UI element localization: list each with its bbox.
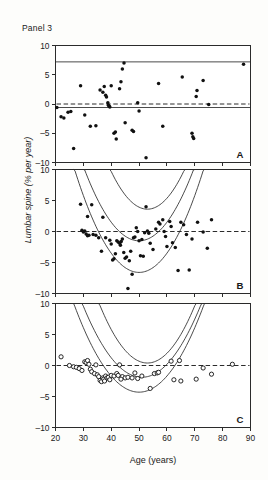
x-tick-label: 40: [107, 433, 117, 443]
data-point: [194, 377, 198, 381]
data-point: [230, 362, 234, 366]
y-tick-label: 5: [45, 196, 50, 206]
panel-letter-a: A: [237, 149, 244, 160]
data-point: [172, 378, 176, 382]
data-point: [114, 130, 118, 134]
data-point: [140, 238, 144, 242]
data-point: [136, 376, 140, 380]
data-point: [179, 379, 183, 383]
data-point: [168, 220, 172, 224]
data-point: [144, 205, 148, 209]
data-point: [169, 359, 173, 363]
data-point: [125, 255, 129, 259]
data-point: [144, 156, 148, 160]
figure-panel-3: Panel 3 Lumbar spine (% per year) Age (y…: [0, 0, 268, 480]
data-point: [100, 250, 104, 254]
data-point: [112, 257, 116, 261]
data-point: [118, 87, 122, 91]
data-point: [147, 232, 151, 236]
data-point: [210, 218, 214, 222]
data-point: [157, 82, 161, 86]
data-point: [129, 250, 133, 254]
data-point: [80, 368, 84, 372]
data-point: [156, 370, 160, 374]
data-point: [123, 121, 127, 125]
data-point: [119, 80, 123, 84]
y-tick-label: 0: [45, 227, 50, 237]
x-tick-label: 70: [190, 433, 200, 443]
x-tick-label: 60: [162, 433, 172, 443]
data-point: [132, 130, 136, 134]
data-point: [190, 132, 194, 136]
data-point: [94, 363, 98, 367]
data-point: [162, 230, 166, 234]
panel-letter-c: C: [237, 414, 244, 425]
scatter-plot-canvas: –10–50510A–10–50510B–10–5051020304050607…: [0, 0, 268, 480]
y-tick-label: 10: [40, 41, 50, 51]
data-point: [105, 95, 109, 99]
data-point: [90, 203, 94, 207]
data-point: [135, 226, 139, 230]
data-point: [62, 116, 66, 120]
data-point: [196, 220, 200, 224]
data-point: [103, 85, 107, 89]
data-point: [126, 375, 130, 379]
x-tick-label: 20: [51, 433, 61, 443]
data-point: [72, 147, 76, 151]
data-point: [192, 137, 196, 141]
data-point: [116, 373, 120, 377]
data-point: [201, 79, 205, 83]
data-point: [133, 371, 137, 375]
data-point: [140, 374, 144, 378]
data-point: [59, 355, 63, 359]
data-point: [119, 377, 123, 381]
y-tick-label: –5: [40, 258, 50, 268]
data-point: [122, 251, 126, 255]
data-point: [130, 376, 134, 380]
data-point: [87, 233, 91, 237]
data-point: [154, 227, 158, 231]
data-point: [242, 62, 246, 66]
data-point: [207, 103, 211, 107]
data-point: [55, 106, 59, 110]
x-tick-label: 50: [134, 433, 144, 443]
data-point: [158, 222, 162, 226]
data-point: [201, 366, 205, 370]
data-point: [181, 75, 185, 79]
data-point: [94, 124, 98, 128]
data-point: [114, 137, 118, 141]
data-point: [136, 101, 140, 105]
data-point: [104, 236, 108, 240]
data-point: [69, 110, 73, 114]
data-point: [164, 235, 168, 239]
data-point: [161, 218, 165, 222]
data-point: [195, 89, 199, 93]
data-point: [114, 252, 118, 256]
data-point: [108, 238, 112, 242]
x-tick-label: 30: [79, 433, 89, 443]
y-tick-label: 0: [45, 99, 50, 109]
y-tick-label: –10: [36, 423, 50, 433]
data-point: [169, 225, 173, 229]
data-point: [79, 84, 83, 88]
y-tick-label: 5: [45, 70, 50, 80]
data-point: [137, 109, 141, 113]
data-point: [79, 202, 83, 206]
data-point: [148, 242, 152, 246]
data-point: [108, 105, 112, 109]
y-tick-label: 0: [45, 361, 50, 371]
y-tick-label: –10: [36, 289, 50, 299]
data-point: [101, 215, 105, 219]
data-point: [194, 95, 198, 99]
data-point: [133, 235, 137, 239]
data-point: [67, 363, 71, 367]
data-point: [176, 269, 180, 273]
x-tick-label: 90: [246, 433, 256, 443]
data-point: [83, 113, 87, 117]
data-point: [122, 61, 126, 65]
data-point: [97, 236, 101, 240]
panel-letter-b: B: [237, 280, 244, 291]
data-point: [190, 237, 194, 241]
data-point: [119, 243, 123, 247]
data-point: [94, 233, 98, 237]
